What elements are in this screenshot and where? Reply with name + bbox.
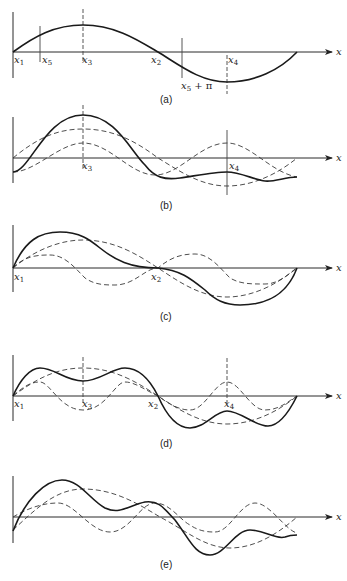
panel-e: x (e) [13, 476, 342, 570]
label-x4: x4 [229, 160, 240, 173]
label-x2: x2 [151, 271, 161, 284]
x-axis-label: x [336, 152, 342, 163]
label-x4: x4 [224, 398, 235, 411]
label-x4: x4 [228, 54, 239, 67]
label-x1: x1 [14, 271, 24, 284]
x-axis-label: x [336, 390, 342, 401]
label-x1: x1 [14, 54, 24, 67]
caption-b: (b) [160, 200, 172, 211]
caption-c: (c) [160, 311, 172, 322]
label-x3: x3 [82, 54, 92, 67]
label-x2: x2 [148, 398, 158, 411]
dashed-component-harmonic [13, 503, 297, 533]
label-x5-plus-pi: x5 + π [181, 80, 213, 93]
caption-a: (a) [160, 94, 172, 105]
x-axis-label: x [336, 262, 342, 273]
label-x1: x1 [14, 398, 24, 411]
panel-c: x x1 x2 (c) [13, 225, 342, 322]
label-x2: x2 [151, 54, 161, 67]
label-x3: x3 [82, 160, 92, 173]
label-x3: x3 [82, 398, 92, 411]
x-axis-label: x [336, 46, 342, 57]
dashed-component-harmonic [13, 143, 297, 177]
panel-d: x x1 x3 x2 x4 (d) [13, 355, 342, 449]
panel-b: x x3 x4 (b) [13, 105, 342, 211]
panel-a: x x1 x5 x3 x2 x5 + π x4 (a) [13, 9, 342, 105]
label-x5: x5 [42, 54, 52, 67]
fourier-component-figure: x x1 x5 x3 x2 x5 + π x4 (a) x x3 x4 (b) … [0, 0, 347, 581]
dashed-component-fundamental [13, 489, 297, 548]
solid-sum-curve [13, 115, 297, 181]
x-axis-label: x [336, 511, 342, 522]
caption-e: (e) [160, 559, 172, 570]
solid-sum-curve [13, 368, 297, 428]
caption-d: (d) [160, 438, 172, 449]
